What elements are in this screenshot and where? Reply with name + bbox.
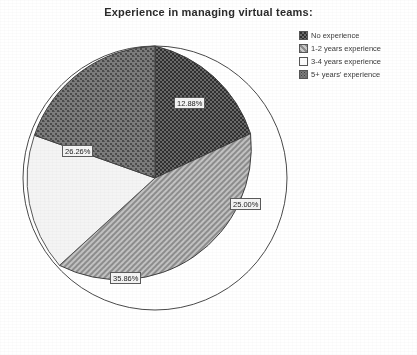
slice-label-5-plus-years: 26.26% [62, 145, 93, 157]
pie-chart-figure: Experience in managing virtual teams: [0, 0, 417, 355]
legend-item-1-2-years[interactable]: 1-2 years experience [299, 43, 417, 55]
pie-plot-area: 12.88% 25.00% 35.86% 26.26% [22, 25, 288, 331]
legend-swatch-checkerboard-icon [299, 31, 308, 40]
legend-swatch-dotted-icon [299, 70, 308, 79]
slice-label-3-4-years: 35.86% [110, 272, 141, 284]
slice-label-1-2-years: 25.00% [230, 198, 261, 210]
legend-label-no-experience: No experience [311, 31, 359, 40]
slice-label-no-experience: 12.88% [174, 97, 205, 109]
legend-item-no-experience[interactable]: No experience [299, 30, 417, 42]
legend-label-5-plus-years: 5+ years' experience [311, 70, 380, 79]
legend-label-3-4-years: 3-4 years experience [311, 57, 381, 66]
legend-item-3-4-years[interactable]: 3-4 years experience [299, 56, 417, 68]
pie-svg [22, 25, 288, 331]
legend-swatch-solid-white-icon [299, 57, 308, 66]
legend-item-5-plus-years[interactable]: 5+ years' experience [299, 69, 417, 81]
legend-label-1-2-years: 1-2 years experience [311, 44, 381, 53]
chart-legend: No experience 1-2 years experience 3-4 y… [299, 30, 417, 82]
legend-swatch-diagonal-hatch-icon [299, 44, 308, 53]
chart-title: Experience in managing virtual teams: [0, 6, 417, 18]
